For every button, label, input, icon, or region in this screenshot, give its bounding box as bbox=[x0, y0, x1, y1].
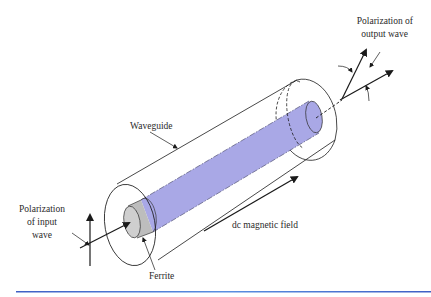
waveguide-label-leader bbox=[150, 132, 177, 148]
input-wave bbox=[72, 215, 129, 266]
ferrite-rotator-diagram: Polarization of output wave Waveguide Po… bbox=[0, 0, 431, 297]
dc-field-label: dc magnetic field bbox=[232, 220, 298, 230]
ferrite-label: Ferrite bbox=[149, 271, 174, 281]
output-wave bbox=[338, 50, 392, 101]
input-polarization-label-2: of input bbox=[27, 217, 57, 227]
input-polarization-label-1: Polarization bbox=[19, 204, 65, 214]
output-label-leader bbox=[370, 52, 380, 67]
bottom-rule bbox=[16, 291, 431, 293]
ferrite-label-leader bbox=[143, 238, 155, 270]
output-polarization-label-2: output wave bbox=[361, 29, 408, 39]
rotation-angle-arc-top bbox=[338, 66, 352, 72]
output-polarization-label-1: Polarization of bbox=[357, 16, 414, 26]
propagation-arrow-out bbox=[340, 71, 392, 100]
ferrite-rod bbox=[121, 81, 324, 239]
waveguide-label: Waveguide bbox=[130, 121, 173, 131]
rotation-angle-arc-bottom bbox=[366, 86, 369, 101]
input-label-leader bbox=[72, 233, 89, 245]
input-polarization-label-3: wave bbox=[32, 230, 52, 240]
